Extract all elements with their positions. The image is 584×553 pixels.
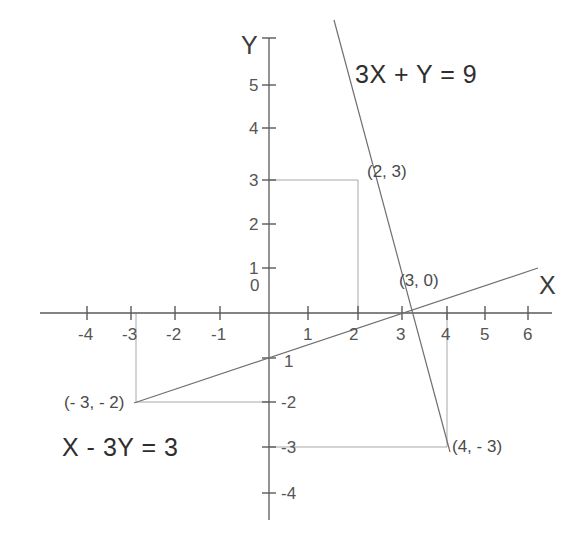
equation-label-line2: X - 3Y = 3	[62, 435, 178, 460]
x-tick-label-5: 5	[480, 326, 489, 343]
graph-figure: Y X 0 -4 -3 -2 -1 1 2 3 4 5 6 5 4 3 2 1 …	[0, 0, 584, 553]
line-x-minus-3y-equals-3	[134, 268, 538, 403]
coordinate-plot-svg	[0, 0, 584, 553]
point-label-3-0: (3, 0)	[399, 272, 439, 289]
equation-label-line1: 3X + Y = 9	[355, 62, 477, 87]
x-tick-label-2: 2	[349, 326, 358, 343]
point-label-2-3: (2, 3)	[367, 163, 407, 180]
y-tick-label-5: 5	[249, 77, 258, 94]
y-axis-label: Y	[241, 33, 258, 58]
x-tick-label-neg4: -4	[78, 326, 93, 343]
y-tick-label-4: 4	[249, 120, 258, 137]
y-tick-label-neg3: -3	[281, 439, 296, 456]
y-tick-label-3: 3	[249, 172, 258, 189]
x-axis-label: X	[539, 273, 556, 298]
y-tick-label-2: 2	[249, 216, 258, 233]
x-tick-label-neg2: -2	[166, 326, 181, 343]
y-tick-label-neg4: -4	[281, 485, 296, 502]
x-tick-label-4: 4	[441, 326, 450, 343]
x-tick-label-neg3: -3	[122, 326, 137, 343]
point-label-neg3-neg2: (- 3, - 2)	[64, 394, 124, 411]
x-tick-label-3: 3	[396, 326, 405, 343]
y-tick-label-1: 1	[249, 260, 258, 277]
x-tick-label-6: 6	[523, 326, 532, 343]
plotted-lines	[134, 20, 538, 452]
origin-label: 0	[250, 277, 259, 294]
x-tick-label-neg1: -1	[211, 326, 226, 343]
point-label-4-neg3: (4, - 3)	[452, 438, 502, 455]
y-tick-label-neg2: -2	[281, 394, 296, 411]
x-tick-label-1: 1	[303, 326, 312, 343]
y-tick-label-neg1: 1	[284, 353, 293, 370]
